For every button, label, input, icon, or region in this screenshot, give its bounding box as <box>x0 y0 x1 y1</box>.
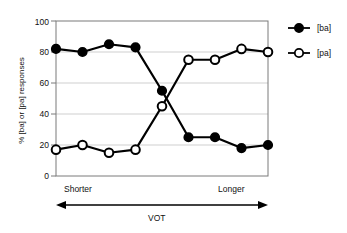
data-point <box>105 148 114 157</box>
gridlines <box>56 52 268 145</box>
data-point <box>211 55 220 64</box>
x-axis-low-label: Shorter <box>64 185 92 194</box>
data-point <box>158 86 167 95</box>
plot-frame <box>56 21 268 176</box>
legend-marker-pa <box>288 49 310 57</box>
data-point <box>78 141 87 150</box>
chart-figure: % [ba] or [pa] responses 100 80 60 40 20… <box>0 0 347 233</box>
data-point <box>184 133 193 142</box>
x-axis-title: VOT <box>148 214 165 223</box>
legend-label-pa: [pa] <box>317 49 331 58</box>
series-line <box>56 44 268 148</box>
legend-marker-ba <box>288 24 310 32</box>
x-axis-arrow <box>56 201 268 209</box>
series-ba <box>52 40 273 152</box>
data-point <box>78 48 87 57</box>
series-line <box>56 49 268 153</box>
data-point <box>52 45 61 54</box>
data-point <box>264 48 273 57</box>
data-point <box>237 144 246 153</box>
data-point <box>211 133 220 142</box>
x-axis-high-label: Longer <box>218 185 244 194</box>
data-point <box>158 102 167 111</box>
plot-area <box>0 0 347 233</box>
data-point <box>237 45 246 54</box>
series-pa <box>52 45 273 157</box>
legend-label-ba: [ba] <box>317 24 331 33</box>
data-point <box>105 40 114 49</box>
data-point <box>52 145 61 154</box>
data-point <box>131 43 140 52</box>
data-point <box>184 55 193 64</box>
data-point <box>131 145 140 154</box>
data-point <box>264 141 273 150</box>
